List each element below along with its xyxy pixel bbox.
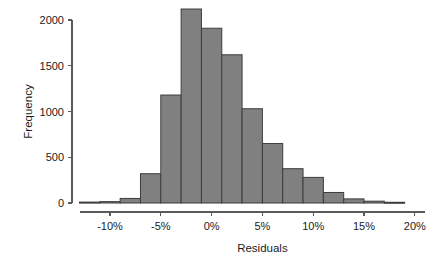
x-axis-tick-label: -5% [151, 220, 171, 232]
x-axis-tick-label: 10% [302, 220, 324, 232]
histogram-bar [80, 202, 100, 203]
histogram-bar [303, 177, 323, 203]
histogram-bar [181, 9, 201, 203]
x-axis-tick-label: 15% [353, 220, 375, 232]
y-axis-tick-label: 1000 [40, 106, 64, 118]
histogram-bar [323, 192, 343, 203]
y-axis-tick-label: 1500 [40, 60, 64, 72]
y-axis-tick-label: 0 [58, 197, 64, 209]
x-axis-tick-label: -10% [97, 220, 123, 232]
histogram-bar [262, 144, 282, 203]
histogram-chart: 0500100015002000 -10%-5%0%5%10%15%20% Fr… [0, 0, 448, 275]
x-axis-tick-label: 20% [404, 220, 426, 232]
histogram-bars [80, 9, 405, 203]
histogram-bar [140, 174, 160, 203]
histogram-bar [283, 169, 303, 203]
x-axis-tick-label: 0% [204, 220, 220, 232]
x-axis-tick-label: 5% [254, 220, 270, 232]
y-axis-tick-label: 2000 [40, 14, 64, 26]
histogram-bar [100, 202, 120, 203]
chart-canvas: 0500100015002000 -10%-5%0%5%10%15%20% Fr… [0, 0, 448, 275]
histogram-bar [222, 55, 242, 203]
y-axis-title: Frequency [22, 84, 34, 139]
histogram-bar [161, 95, 181, 203]
x-axis: -10%-5%0%5%10%15%20% [80, 212, 426, 232]
y-axis: 0500100015002000 [40, 14, 72, 209]
histogram-bar [344, 199, 364, 203]
x-axis-title: Residuals [237, 242, 288, 254]
y-axis-tick-label: 500 [46, 151, 64, 163]
histogram-bar [242, 109, 262, 203]
histogram-bar [364, 201, 384, 203]
histogram-bar [120, 198, 140, 203]
histogram-bar [384, 202, 404, 203]
histogram-bar [201, 28, 221, 203]
